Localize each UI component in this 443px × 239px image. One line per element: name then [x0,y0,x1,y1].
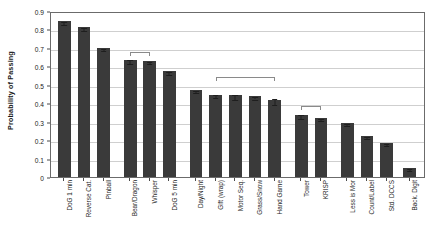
x-tick-label: Whisper [151,180,158,203]
bar-slot [361,13,374,177]
error-cap-bottom [81,31,87,32]
bar-slot [143,13,156,177]
bar [190,90,203,177]
bar [315,118,328,177]
x-tick-mark [274,178,275,181]
error-cap-bottom [318,121,324,122]
x-label-slot: Less is Mor [340,178,353,239]
y-axis-title-text: Probability of Passing [6,51,15,130]
x-tick-label: Grass/Snow [256,180,263,215]
error-cap-bottom [345,126,351,127]
x-label-slot: KRISP [314,178,327,239]
bar [380,143,393,177]
x-label-slot: Reverse Cat. [77,178,90,239]
x-label-slot: DoG 5 min [162,178,175,239]
y-axis-title: Probability of Passing [2,0,18,180]
x-tick-mark [320,178,321,181]
bar [295,115,308,177]
x-label-slot: Count/Label [360,178,373,239]
bar-slot [229,13,242,177]
bar-slot [97,13,110,177]
x-tick-label: Tower [303,180,310,197]
error-cap-top [81,28,87,29]
bar-slot [78,13,91,177]
bar [124,60,137,177]
x-tick-mark [346,178,347,181]
bar [229,95,242,177]
x-label-slot: Motor Seq. [228,178,241,239]
y-tick-label: 0.2 [35,138,44,145]
error-cap-top [298,115,304,116]
bar [143,61,156,177]
bar [163,71,176,177]
y-tick-label: 0.9 [35,9,44,16]
x-label-slot: DoG 1 min [57,178,70,239]
x-label-slot: Grass/Snow [248,178,261,239]
error-cap-top [101,49,107,50]
x-tick-label: Gift (wrap) [217,180,224,210]
x-tick-label: Reverse Cat. [85,180,92,217]
y-tick-label: 0.1 [35,156,44,163]
x-tick-label: KRISP [322,180,329,199]
bar [249,96,262,177]
significance-bracket [130,52,150,56]
error-cap-top [345,124,351,125]
x-tick-label: Std. DCCS [388,180,395,211]
x-tick-mark [215,178,216,181]
error-cap-top [193,91,199,92]
x-tick-mark [149,178,150,181]
x-tick-mark [409,178,410,181]
bar [78,27,91,177]
bar [209,95,222,177]
y-tick-label: 0.7 [35,45,44,52]
x-tick-mark [195,178,196,181]
error-cap-top [127,60,133,61]
bar-slot [341,13,354,177]
bar [341,123,354,177]
error-cap-bottom [407,171,413,172]
x-label-slot: Bear/Dragon [123,178,136,239]
significance-bracket [216,77,275,81]
error-cap-top [61,22,67,23]
x-axis-tick-labels: DoG 1 minReverse Cat.PinballBear/DragonW… [50,178,425,239]
error-cap-bottom [272,105,278,106]
bar-slot [268,13,281,177]
bar-slot [209,13,222,177]
error-cap-bottom [298,119,304,120]
error-cap-top [384,144,390,145]
x-tick-mark [83,178,84,181]
error-cap-top [147,62,153,63]
error-cap-bottom [101,51,107,52]
x-tick-mark [103,178,104,181]
bar-slot [190,13,203,177]
x-tick-label: Day/Night [197,180,204,208]
error-cap-top [318,119,324,120]
x-tick-mark [234,178,235,181]
y-tick-label: 0.8 [35,27,44,34]
x-tick-label: DoG 1 min [66,180,73,211]
bars-layer [51,13,424,177]
error-cap-bottom [61,25,67,26]
error-cap-bottom [213,98,219,99]
y-tick-label: 0 [40,175,44,182]
x-tick-mark [168,178,169,181]
y-tick-label: 0.3 [35,119,44,126]
y-tick-label: 0.4 [35,101,44,108]
x-tick-label: Less is Mor [349,180,356,213]
significance-bracket [301,106,321,110]
bar-slot [124,13,137,177]
error-cap-top [252,97,258,98]
y-tick-label: 0.5 [35,82,44,89]
x-label-slot: Back. Digit [402,178,415,239]
x-label-slot: Hand Game [267,178,280,239]
x-tick-mark [254,178,255,181]
x-tick-label: DoG 5 min [171,180,178,211]
bar [58,21,71,177]
x-tick-mark [300,178,301,181]
error-cap-bottom [193,93,199,94]
x-label-slot: Tower [294,178,307,239]
error-cap-bottom [167,75,173,76]
x-label-slot: Std. DCCS [379,178,392,239]
error-cap-bottom [147,64,153,65]
bar [97,48,110,177]
